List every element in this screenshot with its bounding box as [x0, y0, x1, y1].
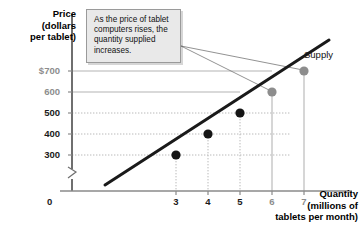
- y-axis-title: Price (dollars per tablet): [0, 8, 76, 43]
- annotation-text: As the price of tablet computers rises, …: [94, 15, 174, 56]
- y-tick-label-700: $700: [16, 65, 60, 76]
- x-tick-label-7: 7: [296, 196, 312, 207]
- x-tick-label-3: 3: [168, 196, 184, 207]
- supply-curve-figure: Price (dollars per tablet) Quantity (mil…: [0, 0, 359, 235]
- leader-line-to-6: [181, 46, 271, 91]
- leader-line-to-7: [181, 46, 303, 70]
- x-tick-label-4: 4: [200, 196, 216, 207]
- y-tick-label-500: 500: [16, 107, 60, 118]
- origin-label: 0: [47, 196, 52, 207]
- data-point-6: [267, 87, 276, 96]
- x-tick-label-6: 6: [264, 196, 280, 207]
- x-tick-label-5: 5: [232, 196, 248, 207]
- data-point-5: [235, 108, 244, 117]
- data-point-3: [171, 150, 180, 159]
- horizontal-gridlines: [72, 113, 290, 155]
- annotation-callout: As the price of tablet computers rises, …: [86, 9, 181, 63]
- y-tick-label-400: 400: [16, 128, 60, 139]
- y-tick-label-600: 600: [16, 86, 60, 97]
- y-tick-label-300: 300: [16, 149, 60, 160]
- data-point-4: [203, 129, 212, 138]
- highlight-droplines: [272, 71, 304, 191]
- data-point-7: [299, 66, 308, 75]
- vertical-droplines: [176, 113, 240, 191]
- highlight-gridlines: [72, 71, 272, 92]
- supply-curve-label: Supply: [304, 49, 333, 60]
